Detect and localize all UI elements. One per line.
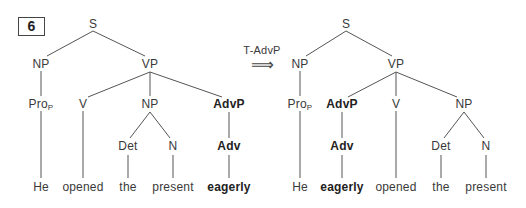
right-node-vp: VP (388, 57, 404, 71)
right-word-adverb: eagerly (320, 180, 363, 194)
right-node-np2: NP (455, 97, 472, 111)
right-node-adv: Adv (330, 139, 353, 153)
right-node-n: N (482, 139, 491, 153)
right-node-det: Det (431, 139, 450, 153)
left-node-advp: AdvP (213, 97, 244, 111)
pro-subscript: P (307, 103, 313, 112)
example-number-box: 6 (18, 17, 45, 36)
left-node-s: S (89, 17, 97, 31)
right-node-s: S (342, 17, 350, 31)
pro-label: Pro (29, 97, 48, 111)
left-node-pro: ProP (29, 97, 54, 112)
right-node-pro: ProP (288, 97, 313, 112)
right-node-np: NP (291, 57, 308, 71)
left-node-np: NP (32, 57, 49, 71)
left-node-vp: VP (142, 57, 158, 71)
right-word: He (292, 180, 308, 194)
right-node-advp: AdvP (326, 97, 357, 111)
right-word: opened (375, 180, 416, 194)
left-node-n: N (169, 139, 178, 153)
right-word: the (432, 180, 449, 194)
left-node-v: V (79, 97, 87, 111)
double-arrow-icon: ⟹ (251, 55, 274, 74)
left-word-adverb: eagerly (207, 180, 250, 194)
left-node-np2: NP (141, 97, 158, 111)
left-node-det: Det (118, 139, 137, 153)
right-word: present (465, 180, 506, 194)
pro-label: Pro (288, 97, 307, 111)
right-node-v: V (392, 97, 400, 111)
left-word: He (33, 180, 49, 194)
left-node-adv: Adv (217, 139, 240, 153)
left-word: opened (62, 180, 103, 194)
pro-subscript: P (48, 103, 54, 112)
left-word: present (152, 180, 193, 194)
left-word: the (119, 180, 136, 194)
